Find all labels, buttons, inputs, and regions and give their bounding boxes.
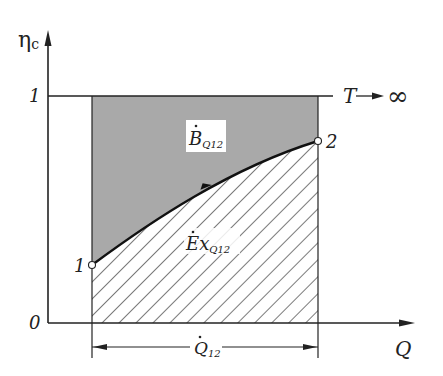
- point-1-label: 1: [74, 255, 85, 276]
- limit-temperature-label: T: [343, 84, 358, 108]
- carnot-exergy-diagram: ηc 1 0 Q T ∞ 1 2 BQ12 ExQ12 Q12: [0, 0, 443, 376]
- point-1-marker: [89, 262, 96, 269]
- limit-infinity-label: ∞: [387, 81, 409, 111]
- anergy-dot-icon: [195, 125, 198, 128]
- dimension-arrow-right-icon: [303, 344, 317, 350]
- dimension-arrow-left-icon: [93, 344, 107, 350]
- y-tick-1: 1: [29, 85, 40, 106]
- y-axis-label: ηc: [18, 27, 39, 52]
- x-axis-label: Q: [395, 337, 411, 361]
- point-2-marker: [315, 138, 322, 145]
- y-tick-0: 0: [29, 312, 40, 333]
- point-2-label: 2: [325, 131, 337, 152]
- limit-arrow-icon: [372, 93, 384, 100]
- y-axis-arrow-icon: [45, 30, 52, 46]
- x-axis-arrow-icon: [399, 320, 415, 327]
